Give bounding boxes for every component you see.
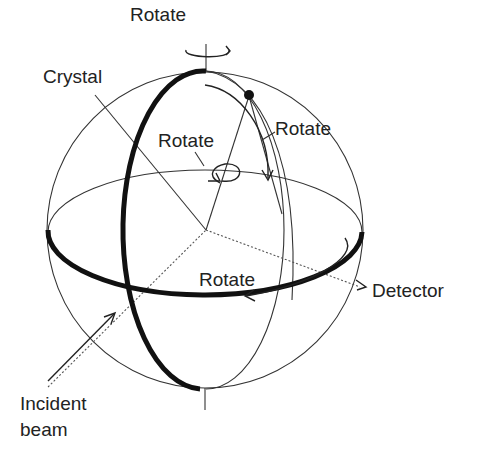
label-rotate-inner: Rotate [158, 130, 214, 151]
detector-arrowhead [356, 280, 366, 290]
meridian-thin-inner [206, 71, 293, 300]
crystal-dot [244, 90, 254, 100]
top-rotate-arrowhead [226, 46, 230, 55]
diffractometer-diagram: Rotate Crystal Rotate Rotate Rotate Dete… [0, 0, 494, 469]
equator-back [48, 170, 362, 232]
meridian-thick [123, 71, 206, 389]
crystal-pointer [95, 95, 206, 230]
incident-beam-arrow [48, 314, 114, 381]
incident-beam-path [48, 230, 206, 387]
inner-rotate-pointer [195, 152, 204, 166]
label-incident: Incident [20, 393, 87, 414]
label-rotate-right: Rotate [275, 118, 331, 139]
dot-to-center-line [206, 96, 249, 230]
label-detector: Detector [372, 280, 444, 301]
label-rotate-equator: Rotate [199, 269, 255, 290]
label-rotate-top: Rotate [130, 4, 186, 25]
label-beam: beam [20, 419, 68, 440]
dot-line-right [249, 96, 282, 214]
meridian-right [206, 71, 284, 389]
top-rotate-arrow [186, 50, 229, 57]
label-crystal: Crystal [43, 66, 102, 87]
inner-rotate-arrowhead [208, 173, 220, 181]
